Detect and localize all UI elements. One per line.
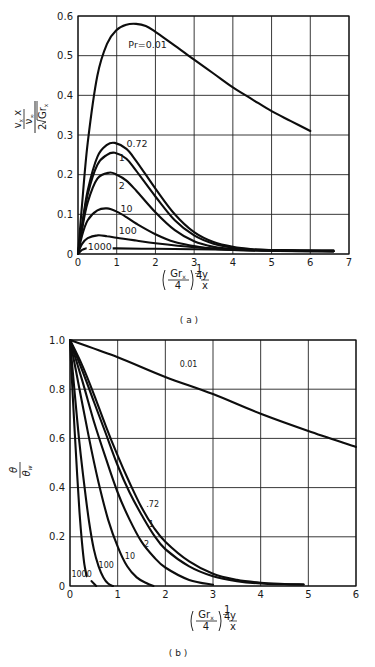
x-tick-label: 5 [268, 257, 274, 268]
x-tick-label: 3 [210, 589, 216, 600]
svg-text:x: x [230, 621, 236, 632]
y-tick-label: 0.3 [57, 130, 73, 141]
svg-text:Grx: Grx [198, 609, 214, 621]
x-tick-label: 6 [307, 257, 313, 268]
curve-pr-0-72 [70, 340, 304, 585]
x-tick-label: 0 [75, 257, 81, 268]
svg-text:θw: θw [21, 465, 33, 476]
curve-label: 2 [144, 540, 149, 549]
curve-label: 2 [119, 180, 125, 191]
curve-label: 100 [99, 561, 114, 570]
chart-b-temperature-profile: 012345600.20.40.60.81.0 0.01.72121010010… [8, 335, 359, 659]
y-tick-label: 0 [59, 581, 65, 592]
chart-b-y-axis-label: θ θw [8, 462, 33, 478]
figure: 0123456700.10.20.30.40.50.6 Pr=0.010.721… [0, 0, 375, 667]
x-tick-label: 7 [346, 257, 352, 268]
chart-a-velocity-profile: 0123456700.10.20.30.40.50.6 Pr=0.010.721… [12, 11, 352, 326]
y-tick-label: 0.4 [49, 482, 65, 493]
chart-a-caption: ( a ) [180, 315, 198, 325]
svg-text:θ: θ [8, 467, 19, 473]
chart-a-x-axis-label: Grx 4 1 4 y x [163, 263, 209, 291]
x-tick-label: 1 [114, 589, 120, 600]
curve-label: 0.01 [180, 360, 198, 369]
svg-text:4: 4 [203, 621, 209, 632]
svg-text:2: 2 [37, 124, 48, 130]
x-tick-label: 2 [152, 257, 158, 268]
curve-label: 1000 [71, 570, 91, 579]
y-tick-label: 0.4 [57, 90, 73, 101]
curve-pr-1 [70, 340, 304, 585]
chart-b-x-axis-label: Grx 4 1 4 y x [191, 604, 237, 632]
curve-label: Pr=0.01 [128, 39, 167, 50]
x-tick-label: 4 [230, 257, 236, 268]
x-tick-label: 6 [353, 589, 359, 600]
y-tick-label: 0.2 [57, 169, 73, 180]
svg-text:ν∞: ν∞ [23, 114, 35, 125]
svg-text:x: x [202, 280, 208, 291]
x-tick-label: 5 [305, 589, 311, 600]
curve-label: 10 [121, 203, 133, 214]
y-tick-label: 0.8 [49, 384, 65, 395]
curve-label: 0.72 [126, 138, 147, 149]
curve-pr-2 [70, 340, 213, 585]
x-tick-label: 4 [257, 589, 263, 600]
curve-label: 1 [149, 520, 154, 529]
curve-label: 1 [119, 152, 125, 163]
y-tick-label: 0.6 [57, 11, 73, 22]
chart-a-tick-labels: 0123456700.10.20.30.40.50.6 [57, 11, 352, 269]
svg-text:4: 4 [175, 280, 181, 291]
y-tick-label: 0.6 [49, 433, 65, 444]
svg-text:Grx: Grx [170, 268, 186, 280]
y-tick-label: 0.1 [57, 209, 73, 220]
curve-label: 1000 [88, 241, 112, 252]
y-tick-label: 0.2 [49, 531, 65, 542]
chart-a-grid [78, 16, 349, 254]
y-tick-label: 0 [67, 249, 73, 260]
svg-text:y: y [230, 610, 236, 621]
curve-label: 100 [119, 225, 137, 236]
chart-b-caption: ( b ) [169, 648, 187, 658]
svg-text:y: y [202, 269, 208, 280]
x-tick-label: 2 [162, 589, 168, 600]
y-tick-label: 0.5 [57, 50, 73, 61]
chart-a-y-axis-label: vx x ν∞ 2 Grx [12, 101, 49, 133]
curve-label: 10 [125, 552, 135, 561]
y-tick-label: 1.0 [49, 335, 65, 346]
curve-pr-1000-tail- [92, 581, 97, 586]
curve-label: .72 [146, 500, 159, 509]
chart-b-grid [70, 340, 356, 586]
x-tick-label: 0 [67, 589, 73, 600]
x-tick-label: 1 [114, 257, 120, 268]
svg-text:Grx: Grx [37, 103, 49, 119]
